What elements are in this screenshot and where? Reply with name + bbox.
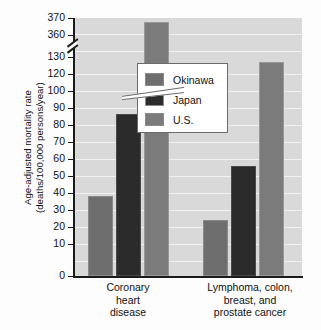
y-axis-title: Age-adjusted mortality rate (deaths/100,… <box>22 48 45 248</box>
legend-label-us: U.S. <box>173 114 193 126</box>
cat0-line3: disease <box>74 306 182 319</box>
cat1-line3: prostate cancer <box>186 306 314 319</box>
x-category-label-cancer: Lymphoma, colon, breast, and prostate ca… <box>186 281 314 319</box>
gridline <box>74 51 302 52</box>
y-tick <box>68 35 74 36</box>
bar-japan-coronary <box>116 114 141 276</box>
y-tick <box>68 276 74 277</box>
y-tick <box>68 210 74 211</box>
legend-swatch-okinawa <box>145 73 164 86</box>
y-axis-title-line1: Age-adjusted mortality rate <box>22 48 34 248</box>
y-tick-label-370: 370 <box>25 11 65 23</box>
bar-chart-figure: Okinawa Japan U.S. 3 <box>0 0 321 330</box>
y-tick <box>68 176 74 177</box>
y-tick <box>68 108 74 109</box>
y-axis-title-line2: (deaths/100,000 persons/year) <box>34 48 46 248</box>
gridline <box>74 34 302 35</box>
y-tick <box>68 159 74 160</box>
y-tick <box>68 18 74 19</box>
bar-japan-cancer <box>231 166 256 276</box>
y-tick-label-0: 0 <box>25 269 65 281</box>
y-tick <box>68 125 74 126</box>
legend-item-okinawa: Okinawa <box>145 70 227 89</box>
legend-item-japan: Japan <box>145 90 227 109</box>
legend: Okinawa Japan U.S. <box>137 63 228 133</box>
x-axis-line <box>73 276 303 278</box>
legend-item-us: U.S. <box>145 110 227 129</box>
bar-okinawa-coronary <box>88 196 113 276</box>
x-category-label-coronary: Coronary heart disease <box>74 281 182 319</box>
cat0-line1: Coronary <box>74 281 182 294</box>
legend-swatch-japan <box>145 93 164 106</box>
legend-swatch-us <box>145 113 164 126</box>
legend-label-japan: Japan <box>173 94 202 106</box>
y-tick-label-360: 360 <box>25 28 65 40</box>
bar-okinawa-cancer <box>203 220 228 276</box>
cat0-line2: heart <box>74 294 182 307</box>
cat1-line2: breast, and <box>186 294 314 307</box>
cat1-line1: Lymphoma, colon, <box>186 281 314 294</box>
plot-area: Okinawa Japan U.S. <box>74 18 302 276</box>
y-tick <box>68 227 74 228</box>
y-tick <box>68 244 74 245</box>
bar-us-coronary <box>144 22 169 276</box>
y-tick <box>68 91 74 92</box>
y-tick <box>68 142 74 143</box>
y-tick <box>68 74 74 75</box>
y-tick <box>68 193 74 194</box>
bar-us-cancer <box>259 62 284 276</box>
legend-label-okinawa: Okinawa <box>173 74 214 86</box>
y-tick <box>68 57 74 58</box>
